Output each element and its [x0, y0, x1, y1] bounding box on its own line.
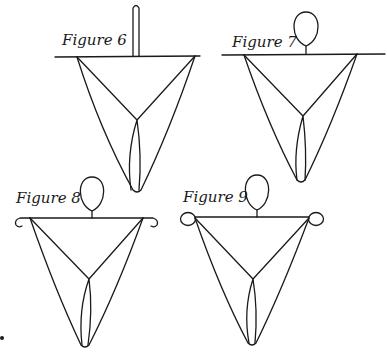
- figure-9-inner: [247, 279, 256, 343]
- figure-7-head: [294, 12, 318, 46]
- figure-8-label: Figure 8: [15, 189, 81, 207]
- figure-8: Figure 8: [15, 177, 158, 347]
- figure-8-head: [80, 177, 103, 211]
- figure-9-label: Figure 9: [182, 188, 248, 206]
- figure-6-rod: [133, 6, 139, 57]
- figure-8-right-hook: [143, 218, 158, 227]
- figure-9-left-ring: [181, 213, 196, 226]
- figure-7: Figure 7: [222, 12, 385, 182]
- figure-8-left-hook: [16, 218, 31, 227]
- figure-9-v: [195, 218, 309, 279]
- figure-6-inner: [129, 120, 140, 190]
- figure-6: Figure 6: [55, 6, 200, 193]
- figure-6-v: [77, 56, 195, 120]
- page-mark: [0, 336, 4, 340]
- figure-7-label: Figure 7: [231, 33, 297, 51]
- figure-6-label: Figure 6: [61, 31, 127, 49]
- figure-7-bar: [222, 54, 385, 55]
- figure-7-inner: [296, 116, 306, 180]
- figure-7-v: [244, 54, 357, 116]
- figure-8-v: [30, 218, 143, 279]
- figures-diagram: Figure 6 Figure 7 Figure 8 Figure 9: [0, 0, 387, 364]
- figure-9-right-ring: [309, 213, 324, 226]
- figure-9: Figure 9: [181, 175, 324, 345]
- figure-8-inner: [81, 279, 91, 345]
- figure-9-head: [245, 175, 268, 210]
